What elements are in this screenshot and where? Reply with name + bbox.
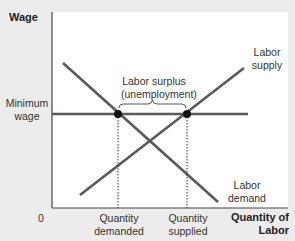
minimum-wage-label-line1: Minimum xyxy=(5,97,49,110)
y-axis-label: Wage xyxy=(9,11,38,24)
labor-demand-label: Labor demand xyxy=(227,179,267,205)
labor-supply-label-line1: Labor xyxy=(249,46,285,59)
labor-demand-label-line2: demand xyxy=(227,192,267,205)
x-axis-label-line1: Quantity of xyxy=(222,211,289,224)
labor-supply-label-line2: supply xyxy=(249,59,285,72)
minimum-wage-label: Minimum wage xyxy=(5,97,49,123)
origin-label: 0 xyxy=(38,212,44,225)
labor-surplus-label: Labor surplus (unemployment) xyxy=(121,75,187,101)
quantity-supplied-label-line2: supplied xyxy=(166,225,210,238)
labor-demand-label-line1: Labor xyxy=(227,179,267,192)
quantity-demanded-label: Quantity demanded xyxy=(94,212,144,238)
quantity-demanded-point xyxy=(114,110,122,118)
surplus-brace xyxy=(119,100,186,108)
quantity-demanded-label-line2: demanded xyxy=(94,225,144,238)
x-axis-label-line2: Labor xyxy=(222,224,289,237)
x-axis-label: Quantity of Labor xyxy=(222,211,289,237)
quantity-supplied-label-line1: Quantity xyxy=(166,212,210,225)
minimum-wage-label-line2: wage xyxy=(5,110,49,123)
labor-supply-label: Labor supply xyxy=(249,46,285,72)
labor-surplus-label-line2: (unemployment) xyxy=(121,88,187,101)
quantity-supplied-point xyxy=(183,110,191,118)
quantity-supplied-label: Quantity supplied xyxy=(166,212,210,238)
labor-surplus-label-line1: Labor surplus xyxy=(121,75,187,88)
quantity-demanded-label-line1: Quantity xyxy=(94,212,144,225)
